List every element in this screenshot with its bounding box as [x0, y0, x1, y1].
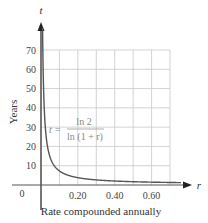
y-tick-label: 10	[26, 160, 36, 171]
formula-denominator: ln (1 + r)	[67, 131, 103, 143]
x-tick-label: 0.20	[69, 190, 87, 201]
x-var-label: r	[197, 179, 202, 191]
y-tick-label: 20	[26, 141, 36, 152]
y-axis-arrow-icon	[38, 22, 45, 31]
curve-doubling-time	[43, 28, 181, 183]
y-var-label: t	[39, 4, 43, 16]
y-tick-label: 40	[26, 102, 36, 113]
grid	[41, 50, 170, 185]
y-tick-label: 50	[26, 83, 36, 94]
y-tick-label: 70	[26, 45, 36, 56]
origin-label: 0	[20, 188, 25, 199]
formula-numerator: ln 2	[76, 116, 91, 127]
y-tick-label: 60	[26, 64, 36, 75]
formula-lhs: t =	[49, 124, 61, 135]
x-axis-arrow-icon	[183, 182, 192, 189]
x-tick-labels: 0.200.400.60	[69, 190, 160, 201]
y-tick-label: 30	[26, 122, 36, 133]
y-tick-labels: 10203040506070	[26, 45, 36, 172]
y-axis-title: Years	[7, 100, 19, 125]
chart: 10203040506070 0.200.400.60 0 t r Years …	[0, 0, 208, 223]
x-tick-label: 0.40	[106, 190, 124, 201]
x-axis-title: Rate compounded annually	[41, 205, 162, 217]
x-tick-label: 0.60	[143, 190, 161, 201]
formula-annotation: t = ln 2 ln (1 + r)	[49, 116, 104, 143]
